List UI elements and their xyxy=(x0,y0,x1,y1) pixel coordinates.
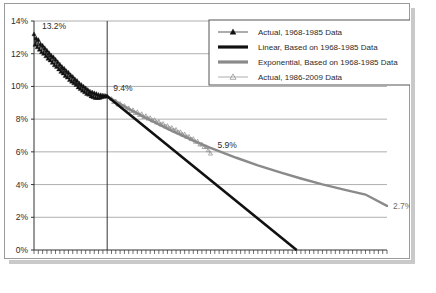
y-tick-label: 4% xyxy=(16,180,29,190)
y-axis-tick-labels: 0%2%4%6%8%10%12%14% xyxy=(11,16,28,255)
legend-label: Linear, Based on 1968-1985 Data xyxy=(258,43,378,52)
exponential-trend-line xyxy=(107,96,387,206)
y-tick-label: 2% xyxy=(16,212,29,222)
chart-screenshot: 0%2%4%6%8%10%12%14% 19681985200920292050… xyxy=(0,0,436,293)
y-tick-label: 0% xyxy=(16,245,29,255)
x-axis-minor-ticks xyxy=(34,250,387,254)
panel-shadow-bottom xyxy=(9,260,415,264)
y-tick-label: 8% xyxy=(16,114,29,124)
x-tick-label: 1985 xyxy=(98,257,117,259)
data-label-mid: 9.4% xyxy=(113,83,133,93)
panel-shadow-right xyxy=(411,8,415,264)
y-tick-label: 12% xyxy=(11,49,28,59)
legend-label: Actual, 1986-2009 Data xyxy=(258,73,343,82)
x-tick-label: 2029 xyxy=(287,257,306,259)
data-point-marker xyxy=(32,32,36,36)
x-tick-label: 2009 xyxy=(201,257,220,259)
legend-box: Actual, 1968-1985 DataLinear, Based on 1… xyxy=(209,20,410,85)
actual-early-line xyxy=(34,34,107,98)
x-axis-tick-labels: 19681985200920292050 xyxy=(25,257,397,259)
y-tick-label: 6% xyxy=(16,147,29,157)
legend-label: Actual, 1968-1985 Data xyxy=(258,28,343,37)
x-tick-label: 1968 xyxy=(25,257,44,259)
data-label-start: 13.2% xyxy=(42,21,67,31)
x-tick-label: 2050 xyxy=(378,257,397,259)
legend-label: Exponential, Based on 1968-1985 Data xyxy=(258,58,398,67)
data-label-late: 5.9% xyxy=(218,140,238,150)
chart-canvas: 0%2%4%6%8%10%12%14% 19681985200920292050… xyxy=(4,3,410,259)
y-tick-label: 14% xyxy=(11,16,28,26)
y-tick-label: 10% xyxy=(11,81,28,91)
series-exponential-trend xyxy=(107,96,387,206)
series-actual-early xyxy=(32,32,109,100)
data-label-end: 2.7% xyxy=(393,201,410,211)
